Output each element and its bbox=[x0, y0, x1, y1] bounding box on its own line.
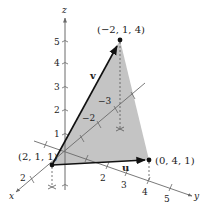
vector-u-label: u bbox=[122, 162, 129, 173]
x-tick-2: 2 bbox=[20, 173, 26, 183]
point-right-label: (0, 4, 1) bbox=[155, 155, 195, 166]
point-left-label: (2, 1, 1) bbox=[18, 151, 58, 162]
neg-x-tick-3: −3 bbox=[98, 96, 112, 106]
y-axis-label: y bbox=[193, 191, 200, 201]
point-top-label: (−2, 1, 4) bbox=[97, 24, 145, 35]
z-tick-4: 4 bbox=[54, 58, 60, 68]
y-tick-2: 2 bbox=[100, 173, 106, 183]
z-axis-label: z bbox=[61, 5, 67, 15]
z-tick-1: 1 bbox=[54, 129, 60, 139]
y-tick-3: 3 bbox=[121, 180, 127, 190]
z-tick-5: 5 bbox=[54, 37, 60, 47]
point-right bbox=[147, 158, 152, 163]
z-tick-2: 2 bbox=[54, 105, 60, 115]
point-top bbox=[118, 38, 123, 43]
neg-x-tick-2: −2 bbox=[82, 113, 95, 123]
vector-v-label: v bbox=[89, 70, 97, 81]
y-tick-5: 5 bbox=[164, 194, 170, 204]
vector-diagram: z 1 2 3 4 5 x 2 −2 −3 y 2 3 4 5 bbox=[0, 0, 204, 216]
z-tick-3: 3 bbox=[54, 82, 60, 92]
y-tick-4: 4 bbox=[142, 187, 148, 197]
point-left bbox=[50, 163, 55, 168]
x-axis-label: x bbox=[9, 191, 14, 201]
